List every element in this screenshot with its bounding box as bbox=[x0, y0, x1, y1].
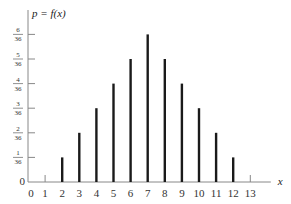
x-tick-label: 0 bbox=[28, 187, 34, 199]
y-tick-numerator: 4 bbox=[16, 76, 20, 84]
x-tick-label: 7 bbox=[145, 187, 151, 199]
x-tick-label: 5 bbox=[111, 187, 117, 199]
y-tick-numerator: 5 bbox=[16, 51, 20, 59]
y-tick-numerator: 2 bbox=[16, 125, 20, 133]
y-tick-denominator: 36 bbox=[15, 134, 23, 142]
y-tick-numerator: 6 bbox=[16, 26, 20, 34]
x-tick-label: 4 bbox=[94, 187, 100, 199]
y-origin-label: 0 bbox=[20, 175, 26, 187]
y-axis-title: p = f(x) bbox=[31, 7, 66, 20]
x-tick-label: 13 bbox=[245, 187, 257, 199]
x-tick-label: 2 bbox=[59, 187, 65, 199]
x-axis-label: x bbox=[277, 175, 283, 187]
x-tick-label: 9 bbox=[179, 187, 185, 199]
y-tick-denominator: 36 bbox=[15, 158, 23, 166]
x-tick-label: 6 bbox=[128, 187, 134, 199]
bars bbox=[62, 34, 233, 182]
x-tick-label: 11 bbox=[211, 187, 222, 199]
x-tick-label: 8 bbox=[162, 187, 168, 199]
y-tick-denominator: 36 bbox=[15, 85, 23, 93]
x-tick-label: 10 bbox=[194, 187, 206, 199]
x-tick-label: 1 bbox=[42, 187, 48, 199]
y-tick-numerator: 3 bbox=[16, 100, 20, 108]
probability-stem-chart: xp = f(x)1362363364365366360012345678910… bbox=[0, 0, 291, 204]
y-tick-numerator: 1 bbox=[16, 149, 20, 157]
axes bbox=[28, 10, 271, 182]
y-tick-denominator: 36 bbox=[15, 109, 23, 117]
x-tick-label: 3 bbox=[77, 187, 83, 199]
y-tick-denominator: 36 bbox=[15, 60, 23, 68]
y-tick-denominator: 36 bbox=[15, 35, 23, 43]
x-tick-label: 12 bbox=[228, 187, 239, 199]
